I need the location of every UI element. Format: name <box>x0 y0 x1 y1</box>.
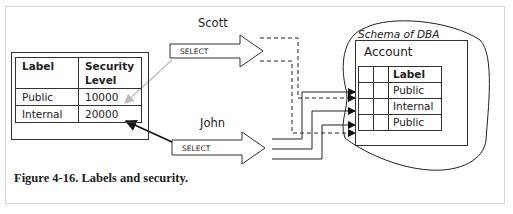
table-row: Public <box>359 83 442 99</box>
user-john: John <box>200 116 225 130</box>
security-level-table: Label SecurityLevel Public 10000 Interna… <box>15 57 142 123</box>
john-access-line-1 <box>272 92 355 139</box>
john-select-label: SELECT <box>182 144 210 153</box>
schema-title: Schema of DBA <box>358 28 439 40</box>
table-row: Internal <box>359 99 442 115</box>
label-cell: Internal <box>16 106 79 123</box>
figure-caption: Figure 4-16. Labels and security. <box>14 171 188 186</box>
user-scott: Scott <box>198 16 228 30</box>
label-cell: Public <box>16 89 79 106</box>
header-security-level: SecurityLevel <box>79 58 142 89</box>
john-access-line-2 <box>272 111 355 149</box>
scott-access-line-1 <box>260 38 355 98</box>
account-label-header: Label <box>389 67 442 83</box>
account-table-name: Account <box>364 45 412 59</box>
john-access-line-3 <box>272 125 355 159</box>
header-label: Label <box>16 58 79 89</box>
level-cell: 10000 <box>79 89 142 106</box>
scott-select-label: SELECT <box>180 47 208 56</box>
account-label-cell: Public <box>389 115 442 131</box>
table-row: Public 10000 <box>16 89 142 106</box>
scott-access-line-2 <box>260 61 355 133</box>
account-table: Label Public Internal Public <box>358 66 442 131</box>
table-row: Public <box>359 115 442 131</box>
account-label-cell: Public <box>389 83 442 99</box>
level-cell: 20000 <box>79 106 142 123</box>
account-label-cell: Internal <box>389 99 442 115</box>
table-row: Internal 20000 <box>16 106 142 123</box>
